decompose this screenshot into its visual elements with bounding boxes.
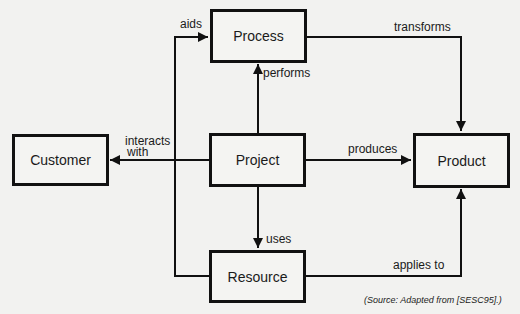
- edge-label-transforms: transforms: [394, 21, 451, 33]
- edge-transforms: [306, 37, 461, 131]
- node-resource-label: Resource: [228, 269, 288, 285]
- node-customer-label: Customer: [30, 152, 91, 168]
- node-product-label: Product: [437, 153, 485, 169]
- edge-label-performs: performs: [263, 67, 310, 79]
- node-resource: Resource: [209, 250, 306, 303]
- node-product: Product: [413, 133, 510, 188]
- node-process: Process: [210, 9, 307, 63]
- edge-label-produces: produces: [348, 143, 397, 155]
- edge-label-aids: aids: [180, 18, 202, 30]
- edge-label-applies-to: applies to: [393, 259, 444, 271]
- edge-aids: [175, 37, 209, 276]
- diagram-canvas: Process Customer Project Product Resourc…: [0, 0, 520, 314]
- node-project: Project: [209, 133, 306, 187]
- source-caption: (Source: Adapted from [SESC95].): [364, 295, 502, 305]
- edge-label-interacts-line2: with: [127, 146, 148, 158]
- node-customer: Customer: [12, 134, 109, 186]
- node-project-label: Project: [236, 152, 280, 168]
- edge-label-uses: uses: [266, 233, 291, 245]
- node-process-label: Process: [233, 28, 284, 44]
